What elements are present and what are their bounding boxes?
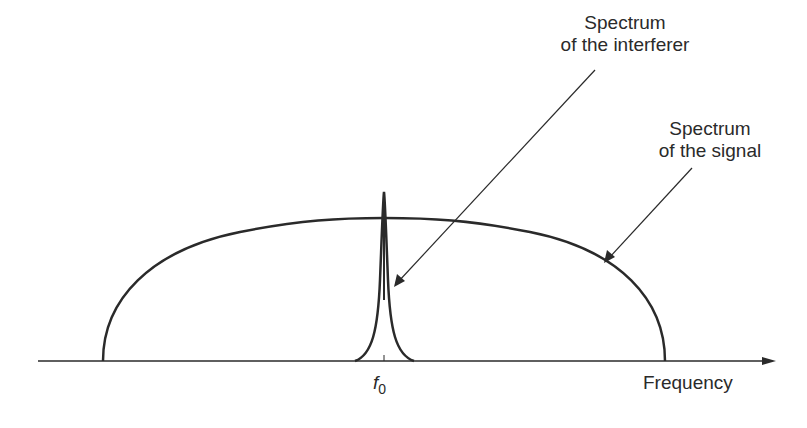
f0-subscript: 0 [378, 381, 386, 397]
signal-arrowhead-icon [604, 250, 615, 263]
spectrum-diagram [0, 0, 807, 428]
f0-label: f0 [373, 372, 386, 400]
axis-arrowhead-icon [762, 357, 776, 365]
interferer-label-line1: Spectrum [520, 12, 730, 34]
signal-label: Spectrum of the signal [630, 118, 790, 162]
interferer-label-line2: of the interferer [520, 34, 730, 56]
interferer-label: Spectrum of the interferer [520, 12, 730, 56]
signal-pointer-line [609, 168, 692, 258]
x-axis-label: Frequency [643, 372, 733, 394]
signal-label-line1: Spectrum [630, 118, 790, 140]
interferer-pointer-line [398, 70, 595, 282]
signal-label-line2: of the signal [630, 140, 790, 162]
